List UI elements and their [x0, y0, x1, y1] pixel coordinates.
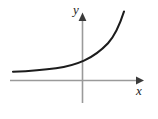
exponential-curve: [13, 12, 124, 72]
exponential-curve-figure: x y: [0, 0, 158, 119]
y-axis-label: y: [71, 2, 79, 17]
figure-container: x y: [0, 0, 158, 119]
y-axis-arrowhead-icon: [79, 13, 87, 22]
x-axis-label: x: [135, 83, 142, 98]
